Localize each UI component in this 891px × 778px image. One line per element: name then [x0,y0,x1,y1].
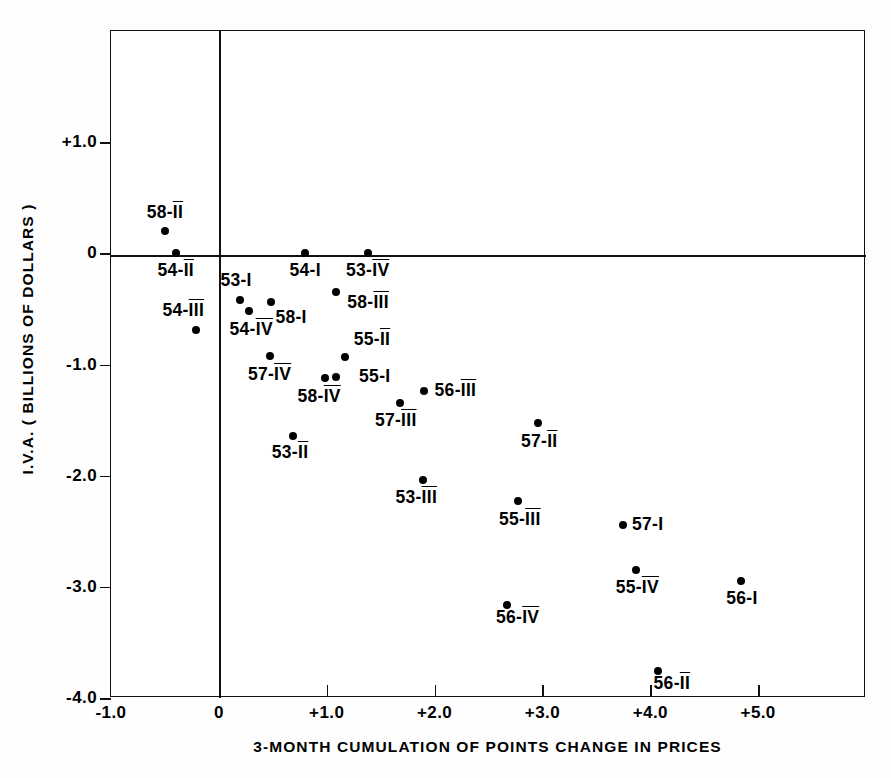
data-point-label: 55-II [354,331,391,349]
y-zero-axis-line [111,255,866,257]
y-tick [100,365,111,367]
x-tick-label: +1.0 [309,703,344,723]
y-tick [100,142,111,144]
y-tick-label: -1.0 [66,355,97,375]
data-point [332,288,340,296]
data-point-label: 57-IV [248,366,291,384]
x-tick-label: +2.0 [417,703,452,723]
x-tick-label: +5.0 [741,703,776,723]
x-tick [219,685,221,696]
data-point-label: 56-I [726,590,757,608]
x-tick-label: +3.0 [525,703,560,723]
y-tick-label: 0 [87,243,97,263]
x-zero-axis-line [219,31,221,698]
x-tick-label: -1.0 [96,703,127,723]
data-point [420,387,428,395]
x-tick [650,685,652,696]
x-tick [327,685,329,696]
data-point-label: 58-II [147,204,184,222]
data-point-label: 58-IV [297,388,340,406]
data-point-label: 54-II [157,262,194,280]
data-point-label: 55-III [499,511,541,529]
data-point-label: 56-III [435,382,477,400]
data-point [267,298,275,306]
x-tick [758,685,760,696]
y-tick [100,253,111,255]
x-axis-title: 3-MONTH CUMULATION OF POINTS CHANGE IN P… [110,738,865,756]
data-point [534,419,542,427]
data-point [737,577,745,585]
data-point-label: 54-III [162,302,204,320]
data-point-label: 56-II [654,675,691,693]
x-tick [542,685,544,696]
y-tick [100,476,111,478]
data-point [301,249,309,257]
plot-area: +1.00-1.0-2.0-3.0-4.0 -1.00+1.0+2.0+3.0+… [110,30,865,697]
y-tick [100,698,111,700]
data-point [321,374,329,382]
data-point-label: 57-II [521,433,558,451]
y-tick-label: -3.0 [66,577,97,597]
data-point [364,249,372,257]
data-point [514,497,522,505]
data-point [419,476,427,484]
data-point [192,326,200,334]
data-point [245,307,253,315]
data-point [289,432,297,440]
data-point-label: 54-IV [230,321,273,339]
data-point [266,352,274,360]
y-tick-label: -2.0 [66,466,97,486]
y-tick-label: +1.0 [62,132,97,152]
data-point-label: 55-IV [616,579,659,597]
y-tick [100,587,111,589]
data-point-label: 53-IV [346,262,389,280]
data-point [332,373,340,381]
data-point-label: 53-I [220,272,251,290]
data-point-label: 57-I [632,516,663,534]
data-point [619,521,627,529]
data-point-label: 55-I [359,368,390,386]
y-tick-label: -4.0 [66,688,97,708]
data-point [632,566,640,574]
data-point-label: 53-III [395,489,437,507]
x-tick [435,685,437,696]
data-point [341,353,349,361]
y-axis-title: I.V.A. ( BILLIONS OF DOLLARS ) [19,79,37,599]
data-point [161,227,169,235]
data-point-label: 57-III [375,412,417,430]
x-tick-label: 0 [214,703,224,723]
data-point [172,249,180,257]
x-tick-label: +4.0 [633,703,668,723]
data-point-label: 58-I [275,309,306,327]
scatter-plot-figure: +1.00-1.0-2.0-3.0-4.0 -1.00+1.0+2.0+3.0+… [0,0,891,778]
data-point-label: 53-II [272,444,309,462]
data-point [236,296,244,304]
data-point-label: 58-III [347,294,389,312]
data-point-label: 54-I [289,262,320,280]
data-point [396,399,404,407]
data-point-label: 56-IV [496,609,539,627]
